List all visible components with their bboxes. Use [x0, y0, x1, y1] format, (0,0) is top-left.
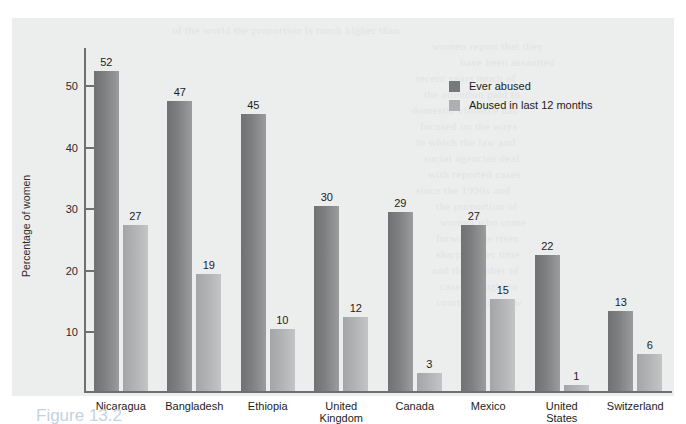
bar-value-label: 13	[615, 296, 627, 308]
x-axis-category-label: Canada	[395, 400, 434, 412]
legend-item-abused-last-12-months: Abused in last 12 months	[449, 99, 593, 111]
bar: 3	[417, 373, 442, 391]
bar: 6	[637, 354, 662, 391]
x-axis-category-label: Bangladesh	[165, 400, 223, 412]
figure-caption: Figure 13.2	[36, 406, 122, 424]
chart-legend: Ever abused Abused in last 12 months	[449, 80, 593, 118]
bar-value-label: 29	[394, 197, 406, 209]
bar-value-label: 27	[129, 210, 141, 222]
legend-swatch-icon	[449, 100, 460, 111]
bar-group: 4719Bangladesh	[158, 48, 232, 391]
bar-value-label: 47	[174, 86, 186, 98]
bar: 19	[196, 274, 221, 391]
bar-value-label: 52	[100, 56, 112, 68]
bar-value-label: 1	[573, 370, 579, 382]
bar-value-label: 19	[203, 259, 215, 271]
bar-value-label: 30	[321, 191, 333, 203]
x-axis-category-label: Ethiopia	[248, 400, 288, 412]
bar-value-label: 27	[468, 210, 480, 222]
bar-value-label: 22	[541, 240, 553, 252]
bar: 27	[123, 225, 148, 391]
bar-group: 4510Ethiopia	[231, 48, 305, 391]
bar-value-label: 15	[497, 284, 509, 296]
y-axis-title: Percentage of women	[20, 175, 32, 277]
bar: 27	[461, 225, 486, 391]
bar-value-label: 12	[350, 302, 362, 314]
bar: 1	[564, 385, 589, 391]
bar: 13	[608, 311, 633, 391]
bar: 15	[490, 299, 515, 391]
bar-group: 5227Nicaragua	[84, 48, 158, 391]
bar: 30	[314, 206, 339, 391]
bar-value-label: 10	[276, 314, 288, 326]
y-axis-tick-label: 30	[66, 203, 78, 215]
legend-label: Abused in last 12 months	[469, 99, 593, 111]
bar-group: 293Canada	[378, 48, 452, 391]
x-axis-category-label: United Kingdom	[320, 400, 363, 424]
bar: 12	[343, 317, 368, 391]
chart-panel: of the world the proportion is much high…	[12, 18, 674, 396]
bar-group: 3012United Kingdom	[305, 48, 379, 391]
y-axis-tick-label: 40	[66, 142, 78, 154]
legend-item-ever-abused: Ever abused	[449, 80, 593, 92]
y-axis-tick-label: 50	[66, 80, 78, 92]
x-axis-category-label: Switzerland	[607, 400, 664, 412]
x-axis-category-label: United States	[546, 400, 578, 424]
bar: 22	[535, 255, 560, 391]
bar-value-label: 6	[647, 339, 653, 351]
bar-value-label: 3	[426, 358, 432, 370]
bar: 10	[270, 329, 295, 391]
bar: 29	[388, 212, 413, 391]
bar: 45	[241, 114, 266, 391]
figure-container: of the world the proportion is much high…	[0, 0, 686, 424]
x-axis-category-label: Mexico	[471, 400, 506, 412]
bar-value-label: 45	[247, 99, 259, 111]
bar-group: 136Switzerland	[599, 48, 673, 391]
legend-label: Ever abused	[469, 80, 531, 92]
bleed-line: of the world the proportion is much high…	[172, 24, 400, 36]
x-axis-line	[84, 391, 672, 393]
bar: 52	[94, 71, 119, 391]
bar: 47	[167, 101, 192, 391]
legend-swatch-icon	[449, 81, 460, 92]
y-axis-tick-label: 20	[66, 265, 78, 277]
y-axis-tick-label: 10	[66, 326, 78, 338]
